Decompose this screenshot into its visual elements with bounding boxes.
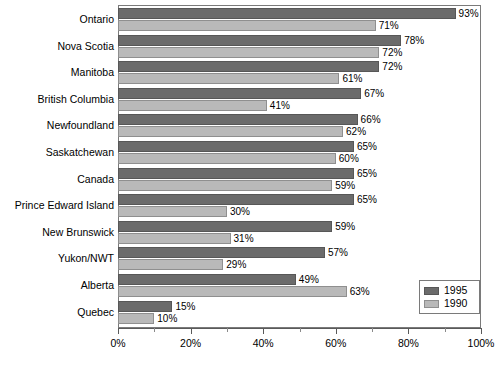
chart-category-row: Canada65%59%	[0, 168, 504, 192]
chart-category-row: New Brunswick59%31%	[0, 221, 504, 245]
chart-legend: 1995 1990	[419, 280, 480, 314]
legend-label-1990: 1990	[444, 297, 467, 310]
legend-swatch-1995	[424, 287, 439, 295]
bar-1995	[118, 247, 325, 258]
bar-1990	[118, 153, 336, 164]
bar-1995	[118, 301, 172, 312]
y-axis-category-label: Ontario	[0, 13, 114, 25]
x-axis-tick-label: 0%	[93, 337, 143, 350]
x-axis-tick-label: 100%	[456, 337, 504, 350]
x-axis-major-tick	[336, 328, 337, 334]
chart-category-row: Prince Edward Island65%30%	[0, 194, 504, 218]
x-axis-tick-label: 20%	[166, 337, 216, 350]
bar-1990	[118, 286, 347, 297]
x-axis-major-tick	[118, 328, 119, 334]
x-axis-minor-tick	[445, 328, 446, 332]
y-axis-category-label: Saskatchewan	[0, 146, 114, 158]
y-axis-category-label: Yukon/NWT	[0, 252, 114, 264]
bar-value-label: 61%	[339, 73, 362, 84]
y-axis-category-label: New Brunswick	[0, 226, 114, 238]
bar-1995	[118, 274, 296, 285]
bar-1995	[118, 194, 354, 205]
bar-value-label: 65%	[354, 141, 377, 152]
bar-value-label: 66%	[358, 114, 381, 125]
x-axis-tick-label: 80%	[383, 337, 433, 350]
bar-1990	[118, 206, 227, 217]
y-axis-category-label: Canada	[0, 173, 114, 185]
x-axis-major-tick	[191, 328, 192, 334]
y-axis-category-label: Nova Scotia	[0, 40, 114, 52]
legend-item-1995: 1995	[424, 284, 475, 297]
bar-1995	[118, 168, 354, 179]
chart-category-row: Ontario93%71%	[0, 8, 504, 32]
bar-value-label: 93%	[456, 8, 479, 19]
legend-swatch-1990	[424, 300, 439, 308]
bar-value-label: 71%	[376, 20, 399, 31]
bar-value-label: 65%	[354, 194, 377, 205]
bar-1990	[118, 100, 267, 111]
bar-value-label: 65%	[354, 168, 377, 179]
x-axis-minor-tick	[300, 328, 301, 332]
bar-1995	[118, 221, 332, 232]
bar-value-label: 62%	[343, 126, 366, 137]
bar-1990	[118, 313, 154, 324]
bar-value-label: 67%	[361, 88, 384, 99]
y-axis-category-label: Alberta	[0, 279, 114, 291]
bar-1995	[118, 141, 354, 152]
x-axis-minor-tick	[227, 328, 228, 332]
bar-value-label: 60%	[336, 153, 359, 164]
bar-value-label: 15%	[172, 301, 195, 312]
bar-value-label: 72%	[379, 47, 402, 58]
bar-1990	[118, 180, 332, 191]
bar-1995	[118, 35, 401, 46]
x-axis-tick-label: 60%	[311, 337, 361, 350]
bar-value-label: 49%	[296, 274, 319, 285]
bar-1995	[118, 61, 379, 72]
chart-category-row: Newfoundland66%62%	[0, 114, 504, 138]
bar-value-label: 57%	[325, 247, 348, 258]
bar-value-label: 29%	[223, 259, 246, 270]
bar-1990	[118, 20, 376, 31]
legend-item-1990: 1990	[424, 297, 475, 310]
y-axis-category-label: Manitoba	[0, 66, 114, 78]
bar-1995	[118, 114, 358, 125]
bar-1995	[118, 8, 456, 19]
chart-category-row: Manitoba72%61%	[0, 61, 504, 85]
y-axis-category-label: Prince Edward Island	[0, 199, 114, 211]
bar-1990	[118, 73, 339, 84]
bar-1995	[118, 88, 361, 99]
bar-value-label: 31%	[231, 233, 254, 244]
y-axis-category-label: British Columbia	[0, 93, 114, 105]
bar-value-label: 72%	[379, 61, 402, 72]
x-axis-major-tick	[408, 328, 409, 334]
y-axis-category-label: Quebec	[0, 306, 114, 318]
bar-1990	[118, 233, 231, 244]
bar-value-label: 59%	[332, 180, 355, 191]
chart-category-row: British Columbia67%41%	[0, 88, 504, 112]
bar-1990	[118, 259, 223, 270]
x-axis-major-tick	[481, 328, 482, 334]
bar-value-label: 10%	[154, 313, 177, 324]
bar-value-label: 78%	[401, 35, 424, 46]
x-axis-minor-tick	[154, 328, 155, 332]
chart-category-row: Saskatchewan65%60%	[0, 141, 504, 165]
legend-label-1995: 1995	[444, 284, 467, 297]
bar-value-label: 30%	[227, 206, 250, 217]
y-axis-category-label: Newfoundland	[0, 119, 114, 131]
bar-value-label: 41%	[267, 100, 290, 111]
x-axis-tick-label: 40%	[238, 337, 288, 350]
bar-chart: Ontario93%71%Nova Scotia78%72%Manitoba72…	[0, 0, 504, 367]
chart-category-row: Nova Scotia78%72%	[0, 35, 504, 59]
bar-1990	[118, 126, 343, 137]
bar-1990	[118, 47, 379, 58]
bar-value-label: 59%	[332, 221, 355, 232]
bar-value-label: 63%	[347, 286, 370, 297]
x-axis-major-tick	[263, 328, 264, 334]
chart-category-row: Yukon/NWT57%29%	[0, 247, 504, 271]
x-axis-minor-tick	[372, 328, 373, 332]
